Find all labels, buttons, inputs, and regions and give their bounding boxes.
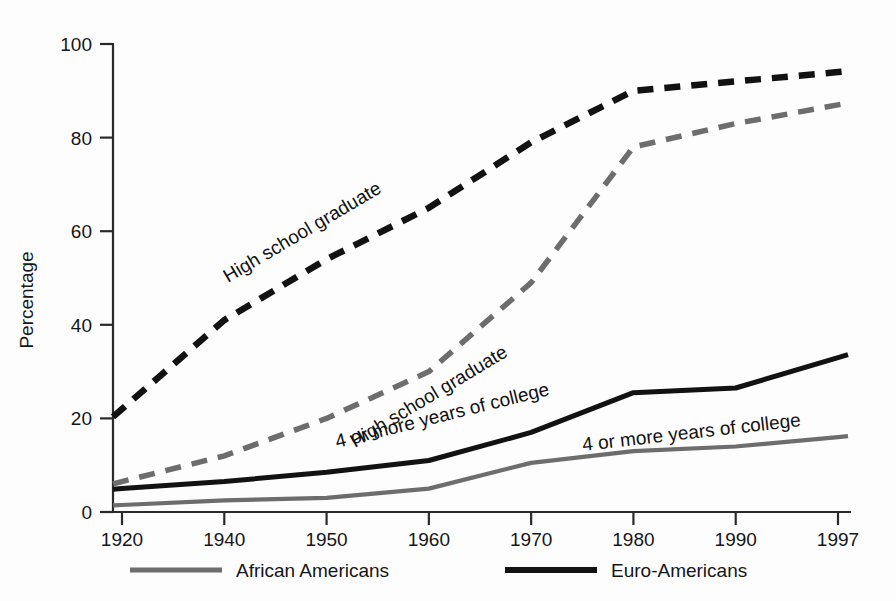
x-tick-label-1950: 1950 (305, 529, 347, 550)
y-tick-label-20: 20 (71, 408, 92, 429)
chart-figure: 020406080100 192019401950196019701980199… (0, 0, 896, 601)
x-tick-label-1997: 1997 (817, 529, 859, 550)
y-tick-label-80: 80 (71, 128, 92, 149)
inline-label-euro-hs-grad: High school graduate (219, 177, 384, 286)
data-series-layer (113, 71, 848, 505)
x-tick-label-1940: 1940 (203, 529, 245, 550)
y-axis-title: Percentage (16, 251, 37, 348)
y-tick-label-60: 60 (71, 221, 92, 242)
x-tick-label-1960: 1960 (408, 529, 450, 550)
x-tick-label-1980: 1980 (612, 529, 654, 550)
x-tick-label-1970: 1970 (510, 529, 552, 550)
y-tick-label-100: 100 (60, 34, 92, 55)
x-axis-ticks: 19201940195019601970198019901997 (101, 512, 859, 550)
legend-label-euro-americans: Euro-Americans (611, 560, 747, 581)
x-tick-label-1990: 1990 (715, 529, 757, 550)
y-axis-ticks: 020406080100 (60, 34, 113, 523)
line-chart: 020406080100 192019401950196019701980199… (0, 0, 896, 601)
x-tick-label-1920: 1920 (101, 529, 143, 550)
chart-legend: African Americans Euro-Americans (130, 560, 747, 581)
legend-label-african-americans: African Americans (236, 560, 389, 581)
y-tick-label-40: 40 (71, 315, 92, 336)
y-tick-label-0: 0 (81, 502, 92, 523)
